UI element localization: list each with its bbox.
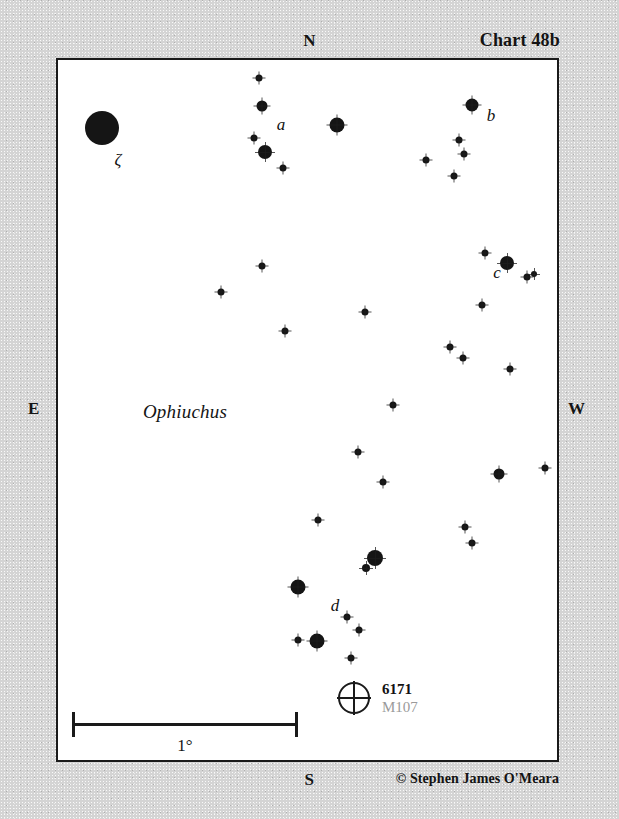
copyright-credit: © Stephen James O'Meara: [396, 771, 559, 787]
star-designation-label: c: [493, 263, 501, 283]
star-marker: [355, 449, 362, 456]
star-marker: [500, 256, 514, 270]
star-marker: [280, 165, 287, 172]
compass-north-label: N: [0, 31, 619, 51]
chart-frame: ζabcd Ophiuchus 6171 M107 1°: [56, 58, 559, 762]
star-marker: [531, 271, 537, 277]
star-marker: [218, 289, 225, 296]
star-marker: [356, 627, 363, 634]
globular-cluster-icon: [338, 682, 370, 714]
star-marker: [256, 75, 263, 82]
object-messier-label: M107: [382, 699, 418, 716]
star-marker: [494, 469, 505, 480]
star-marker: [390, 402, 397, 409]
star-marker: [524, 274, 531, 281]
star-marker: [344, 614, 351, 621]
star-marker: [295, 637, 302, 644]
object-ngc-label: 6171: [382, 681, 412, 698]
star-marker: [315, 517, 322, 524]
star-marker: [367, 550, 383, 566]
scale-bar-label: 1°: [177, 736, 192, 756]
scale-bar-cap-right: [295, 712, 298, 737]
star-marker: [423, 157, 430, 164]
star-marker: [507, 366, 514, 373]
star-designation-label: ζ: [115, 150, 122, 170]
scale-bar-cap-left: [72, 712, 75, 737]
star-marker: [466, 99, 479, 112]
star-designation-label: a: [277, 115, 286, 135]
star-marker: [447, 344, 454, 351]
star-marker: [330, 118, 345, 133]
star-marker: [282, 328, 289, 335]
star-marker: [310, 634, 325, 649]
star-marker: [542, 465, 549, 472]
globular-crossbar-vertical: [353, 681, 355, 715]
star-marker: [380, 479, 387, 486]
star-marker: [85, 111, 119, 145]
star-marker: [291, 580, 306, 595]
star-marker: [461, 151, 468, 158]
star-marker: [362, 309, 369, 316]
star-chart-page: Chart 48b N S E W © Stephen James O'Mear…: [0, 0, 619, 819]
star-marker: [362, 564, 370, 572]
star-marker: [460, 355, 467, 362]
star-marker: [251, 135, 258, 142]
star-marker: [482, 250, 489, 257]
star-marker: [469, 540, 476, 547]
star-marker: [348, 655, 355, 662]
compass-east-label: E: [28, 399, 40, 419]
star-designation-label: b: [487, 106, 496, 126]
constellation-label: Ophiuchus: [143, 401, 227, 423]
compass-west-label: W: [568, 399, 585, 419]
star-marker: [451, 173, 458, 180]
star-marker: [259, 263, 266, 270]
star-designation-label: d: [331, 596, 340, 616]
star-marker: [258, 145, 272, 159]
star-marker: [456, 137, 463, 144]
star-marker: [462, 524, 469, 531]
scale-bar-line: [72, 723, 298, 726]
star-marker: [479, 302, 486, 309]
star-marker: [257, 101, 268, 112]
